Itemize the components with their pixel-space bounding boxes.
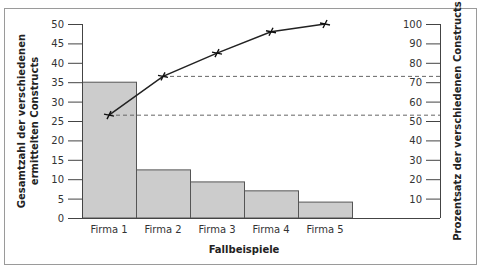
- left-axis-tick-label: 20: [51, 135, 64, 146]
- left-axis-tick-label: 50: [51, 19, 64, 30]
- bar: [137, 170, 191, 218]
- right-y-axis-title: Prozentsatz der verschiedenen Constructs: [452, 1, 463, 240]
- left-axis-tick-label: 30: [51, 97, 64, 108]
- right-axis-tick-label: 100: [403, 19, 422, 30]
- right-axis-tick-label: 10: [409, 194, 422, 205]
- bar: [245, 191, 299, 218]
- left-axis-tick-label: 0: [58, 213, 64, 224]
- bar: [83, 82, 137, 218]
- x-category-label: Firma 3: [198, 224, 235, 235]
- right-axis-tick-label: 80: [409, 58, 422, 69]
- right-axis-tick-label: 60: [409, 97, 422, 108]
- right-axis-tick-label: 50: [409, 116, 422, 127]
- chart-frame: [5, 9, 477, 265]
- right-axis-tick-label: 30: [409, 155, 422, 166]
- right-axis-tick-label: 20: [409, 174, 422, 185]
- left-axis-tick-label: 25: [51, 116, 64, 127]
- x-category-label: Firma 2: [144, 224, 181, 235]
- pareto-chart: 0510152025303540455010203040506070809010…: [0, 0, 481, 274]
- bar: [299, 202, 353, 218]
- left-axis-tick-label: 45: [51, 38, 64, 49]
- x-category-label: Firma 4: [252, 224, 289, 235]
- left-axis-tick-label: 10: [51, 174, 64, 185]
- left-y-axis-title-line: Gesamtzahl der verschiedenen: [16, 34, 27, 208]
- left-axis-tick-label: 35: [51, 77, 64, 88]
- x-category-label: Firma 1: [90, 224, 127, 235]
- left-axis-tick-label: 5: [58, 194, 64, 205]
- x-category-label: Firma 5: [306, 224, 343, 235]
- right-axis-tick-label: 90: [409, 38, 422, 49]
- right-axis-tick-label: 70: [409, 77, 422, 88]
- left-axis-tick-label: 40: [51, 58, 64, 69]
- right-axis-tick-label: 40: [409, 135, 422, 146]
- left-axis-tick-label: 15: [51, 155, 64, 166]
- left-y-axis-title-line: ermittelten Constructs: [29, 57, 40, 185]
- bar: [191, 182, 245, 218]
- x-axis-title: Fallbeispiele: [209, 244, 280, 255]
